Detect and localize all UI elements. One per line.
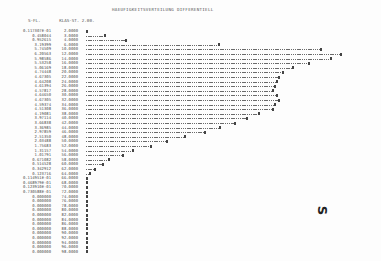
- bar-end-marker: [278, 76, 280, 79]
- histogram-bar: [86, 72, 282, 73]
- bar-end-marker: [102, 163, 104, 166]
- bar-end-marker: [292, 66, 294, 69]
- bar-end-marker: [86, 195, 88, 198]
- bar-end-marker: [218, 43, 220, 46]
- histogram-bar: [86, 151, 132, 152]
- bar-end-marker: [274, 85, 276, 88]
- class-value: 98.0000: [56, 250, 78, 255]
- bar-end-marker: [86, 218, 88, 221]
- bar-end-marker: [272, 89, 274, 92]
- bar-end-marker: [132, 149, 134, 152]
- frequency-value: 0.000000: [17, 250, 51, 255]
- bar-end-marker: [86, 30, 88, 33]
- bar-end-marker: [340, 53, 342, 56]
- bar-end-marker: [330, 57, 332, 60]
- bar-end-marker: [86, 191, 88, 194]
- histogram-bar: [86, 36, 104, 37]
- bar-end-marker: [86, 227, 88, 230]
- bar-end-marker: [184, 135, 186, 138]
- bar-end-marker: [108, 158, 110, 161]
- histogram-bar: [86, 109, 272, 110]
- histogram-bar: [86, 114, 258, 115]
- bar-end-marker: [150, 145, 152, 148]
- histogram-bar: [86, 146, 150, 147]
- bar-end-marker: [86, 209, 88, 212]
- bar-end-marker: [104, 34, 106, 37]
- histogram-bar: [86, 82, 276, 83]
- histogram-bar: [86, 63, 308, 64]
- bar-end-marker: [272, 108, 274, 111]
- histogram-bar: [86, 141, 166, 142]
- bar-end-marker: [274, 103, 276, 106]
- histogram-bar: [86, 59, 330, 60]
- histogram-bar: [86, 49, 320, 50]
- bar-end-marker: [86, 200, 88, 203]
- margin-mark: S: [315, 206, 330, 215]
- histogram-bar: [86, 164, 102, 165]
- bar-end-marker: [122, 154, 124, 157]
- bar-end-marker: [276, 94, 278, 97]
- bar-end-marker: [86, 232, 88, 235]
- histogram-bar: [86, 118, 246, 119]
- bar-end-marker: [246, 117, 248, 120]
- header-class-width: KLAS-ST. 2.00.: [59, 18, 94, 23]
- histogram-bar: [86, 45, 218, 46]
- histogram-bar: [86, 123, 234, 124]
- histogram-bar: [86, 91, 272, 92]
- histogram-bar: [86, 40, 125, 41]
- bar-end-marker: [219, 126, 221, 129]
- histogram-bar: [86, 128, 219, 129]
- bar-end-marker: [258, 112, 260, 115]
- histogram-bar: [86, 132, 204, 133]
- bar-end-marker: [86, 177, 88, 180]
- header-frequency: S-FL.: [28, 18, 41, 23]
- histogram-bar: [86, 160, 108, 161]
- bar-end-marker: [86, 246, 88, 249]
- bar-end-marker: [86, 186, 88, 189]
- bar-end-marker: [94, 168, 96, 171]
- histogram-bar: [86, 77, 278, 78]
- table-row: 0.00000098.0000: [0, 250, 360, 255]
- bar-end-marker: [166, 140, 168, 143]
- printout-page: HAEUFIGKEITSVERTEILUNG DIFFERENTIELL S-F…: [0, 0, 381, 261]
- bar-end-marker: [204, 131, 206, 134]
- bar-end-marker: [276, 80, 278, 83]
- bar-end-marker: [308, 62, 310, 65]
- histogram-bar: [86, 95, 276, 96]
- bar-end-marker: [125, 39, 127, 42]
- bar-end-marker: [89, 172, 91, 175]
- bar-end-marker: [86, 223, 88, 226]
- column-header: S-FL. KLAS-ST. 2.00.: [28, 18, 110, 23]
- document-title: HAEUFIGKEITSVERTEILUNG DIFFERENTIELL: [112, 7, 214, 12]
- histogram-bar: [86, 169, 94, 170]
- bar-end-marker: [86, 250, 88, 253]
- bar-end-marker: [86, 181, 88, 184]
- bar-end-marker: [86, 204, 88, 207]
- bar-end-marker: [320, 48, 322, 51]
- histogram-bar: [86, 86, 274, 87]
- bar-end-marker: [86, 214, 88, 217]
- bar-end-marker: [278, 99, 280, 102]
- histogram-bar: [86, 68, 292, 69]
- histogram-bar: [86, 137, 184, 138]
- histogram-bar: [86, 155, 122, 156]
- histogram-bar: [86, 100, 278, 101]
- histogram-bar: [86, 54, 340, 55]
- bar-end-marker: [234, 122, 236, 125]
- histogram-bar: [86, 105, 274, 106]
- bar-end-marker: [282, 71, 284, 74]
- bar-end-marker: [86, 237, 88, 240]
- bar-end-marker: [86, 241, 88, 244]
